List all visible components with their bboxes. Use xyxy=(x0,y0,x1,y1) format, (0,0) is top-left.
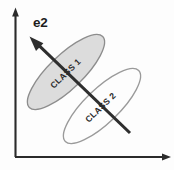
axis-label-e2: e2 xyxy=(33,15,48,30)
vertical-axis-arrowhead xyxy=(12,8,19,17)
horizontal-axis-arrowhead xyxy=(162,154,171,161)
diagram-svg: e2 CLASS 1 CLASS 2 xyxy=(0,0,174,170)
figure-canvas: e2 CLASS 1 CLASS 2 xyxy=(0,0,174,170)
